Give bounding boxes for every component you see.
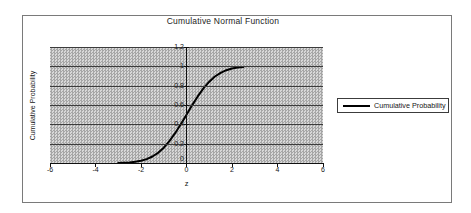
x-axis-title: z [176,179,197,188]
y-tick-label: 0.2 [154,140,186,148]
x-axis-line [50,163,324,164]
x-tick-label: 2 [220,166,244,174]
legend-label: Cumulative Probability [374,101,446,110]
y-tick-label: 1 [154,62,186,70]
legend: Cumulative Probability [337,98,449,113]
y-tick-label: 1.2 [154,43,186,51]
y-tick-label: 0.4 [154,120,186,128]
y-axis-line [186,47,187,167]
chart-title: Cumulative Normal Function [63,16,383,27]
x-tick-label: -4 [84,166,108,174]
x-tick-label: -6 [38,166,62,174]
x-tick-label: 6 [311,166,335,174]
x-tick-label: 4 [266,166,290,174]
y-tick-label: 0 [154,155,186,163]
chart-image: Cumulative Normal Function 1.2 1 0.8 0.6… [0,0,471,213]
y-tick-label: 0.6 [154,101,186,109]
x-tick-label: 0 [175,166,199,174]
x-tick-label: -2 [129,166,153,174]
legend-line-sample-icon [343,105,370,107]
y-axis-title: Cumulative Probability [29,51,38,161]
y-tick-label: 0.8 [154,82,186,90]
